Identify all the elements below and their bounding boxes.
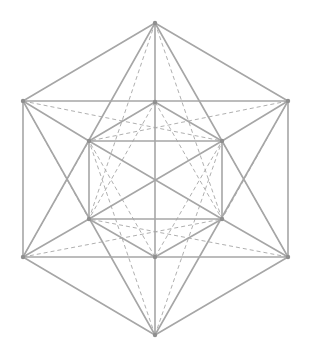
polyhedron-diagram [0, 0, 311, 356]
solid-edge-IB-IR2 [155, 219, 222, 257]
vertex-IB [153, 255, 157, 259]
solid-edge-IT-IR1 [155, 102, 222, 141]
visible-edges [23, 23, 288, 335]
vertex-OL1 [21, 99, 25, 103]
vertex-IT [153, 100, 157, 104]
vertex-OR2 [286, 255, 290, 259]
vertex-IR1 [220, 139, 224, 143]
solid-edge-T-OL1 [23, 23, 155, 101]
vertex-IL2 [87, 217, 91, 221]
vertex-OR1 [286, 99, 290, 103]
solid-edge-T-OR1 [155, 23, 288, 101]
vertex-OL2 [21, 255, 25, 259]
solid-edge-B-OL2 [23, 257, 155, 335]
solid-edge-B-OR2 [155, 257, 288, 335]
solid-edge-IB-IL2 [89, 219, 155, 257]
solid-edge-OL1-IL1 [23, 101, 89, 141]
vertex-IR2 [220, 217, 224, 221]
vertex-B [153, 333, 157, 337]
solid-edge-OR1-IR1 [222, 101, 288, 141]
vertex-T [153, 21, 157, 25]
vertex-IL1 [87, 139, 91, 143]
